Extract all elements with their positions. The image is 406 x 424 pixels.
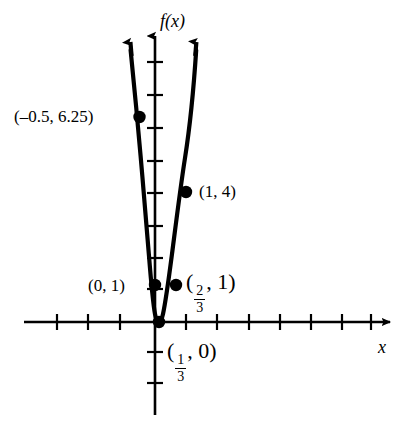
annotation-point-d: (23, 1) [186,271,236,315]
point-1-4[interactable] [180,186,192,198]
annotation-point-d-rest: , 1) [206,269,235,294]
parabola-graph-figure: f(x) x (–0.5, 6.25) (1, 4) (0, 1) (23, 1… [0,0,406,424]
annotation-point-b: (1, 4) [199,183,236,200]
plotted-points [133,111,192,328]
x-axis [24,314,390,330]
annotation-point-d-open: ( [186,269,193,294]
y-axis-label: f(x) [160,12,185,30]
curve-arrow-left [130,42,131,56]
x-axis-label: x [378,338,386,356]
annotation-point-b-text: (1, 4) [199,182,236,201]
point-1over3-0[interactable] [153,316,165,328]
point-0-1[interactable] [149,279,161,291]
annotation-point-e-open: ( [167,338,174,363]
annotation-point-c-text: (0, 1) [88,276,125,295]
y-axis-label-text: f(x) [160,11,185,31]
fraction-two-thirds: 23 [194,284,205,315]
annotation-point-c: (0, 1) [88,277,125,294]
y-axis [147,36,163,415]
annotation-point-e-rest: , 0) [187,338,216,363]
curve-arrow-right [195,42,196,56]
point-minus0.5-6.25[interactable] [133,111,145,123]
fraction-numerator: 2 [194,284,205,299]
x-axis-label-text: x [378,337,386,357]
fraction-denominator: 3 [194,300,205,315]
annotation-point-a: (–0.5, 6.25) [14,108,93,125]
annotation-point-e: (13, 0) [167,340,217,384]
fraction-numerator: 1 [175,353,186,368]
fraction-one-third: 13 [175,353,186,384]
fraction-denominator: 3 [175,369,186,384]
point-2over3-1[interactable] [170,279,182,291]
annotation-point-a-text: (–0.5, 6.25) [14,107,93,126]
